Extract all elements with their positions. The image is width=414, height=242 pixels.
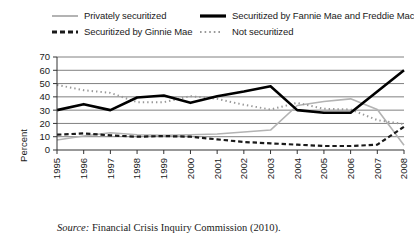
x-tick-label: 2003 <box>265 158 276 179</box>
y-tick-label: 20 <box>39 118 50 129</box>
x-tick-label: 2008 <box>398 158 409 179</box>
series-line <box>57 99 404 146</box>
plot-area: Percent 010203040506070 1995199619971998… <box>0 44 412 199</box>
x-tick-label: 1998 <box>131 158 142 179</box>
gridlines <box>57 57 404 137</box>
legend-item-ginnie-mae: Securitized by Ginnie Mae <box>52 24 192 39</box>
legend-item-privately-securitized: Privately securitized <box>52 8 166 23</box>
legend-swatch-solid-black-icon <box>200 10 226 22</box>
legend-label: Privately securitized <box>84 10 166 21</box>
y-axis-label: Percent <box>18 111 29 181</box>
x-tick-label: 1999 <box>158 158 169 179</box>
y-tick-label: 50 <box>39 78 50 89</box>
legend-label: Securitized by Ginnie Mae <box>84 26 192 37</box>
series-line <box>57 70 404 113</box>
y-tick-label: 40 <box>39 91 50 102</box>
chart-legend: Privately securitized Securitized by Fan… <box>52 8 404 40</box>
x-axis-ticks: 1995199619971998199920002001200220032004… <box>51 150 409 179</box>
y-tick-label: 60 <box>39 65 50 76</box>
line-chart-svg: 010203040506070 199519961997199819992000… <box>0 44 412 199</box>
x-tick-label: 1995 <box>51 158 62 179</box>
source-text: Financial Crisis Inquiry Commission (201… <box>92 222 281 233</box>
source-note: Source: Financial Crisis Inquiry Commiss… <box>57 222 281 233</box>
legend-label: Not securitized <box>232 26 293 37</box>
series-line <box>57 85 404 124</box>
x-tick-label: 1997 <box>105 158 116 179</box>
series-lines <box>57 70 404 146</box>
legend-item-fannie-freddie: Securitized by Fannie Mae and Freddie Ma… <box>200 8 414 23</box>
y-tick-label: 10 <box>39 131 50 142</box>
y-axis-ticks: 010203040506070 <box>39 51 57 155</box>
legend-label: Securitized by Fannie Mae and Freddie Ma… <box>232 10 414 21</box>
legend-swatch-dotted-icon <box>200 26 226 38</box>
x-tick-label: 2000 <box>185 158 196 179</box>
x-tick-label: 2007 <box>372 158 383 179</box>
source-label: Source: <box>57 222 89 233</box>
legend-row: Privately securitized Securitized by Fan… <box>52 8 404 23</box>
y-tick-label: 0 <box>45 144 50 155</box>
legend-row: Securitized by Ginnie Mae Not securitize… <box>52 24 404 39</box>
x-tick-label: 2001 <box>212 158 223 179</box>
legend-swatch-solid-gray-icon <box>52 10 78 22</box>
y-tick-label: 30 <box>39 105 50 116</box>
x-tick-label: 2006 <box>345 158 356 179</box>
y-tick-label: 70 <box>39 51 50 62</box>
x-tick-label: 2002 <box>238 158 249 179</box>
x-tick-label: 1996 <box>78 158 89 179</box>
x-tick-label: 2005 <box>318 158 329 179</box>
legend-item-not-securitized: Not securitized <box>200 24 293 39</box>
legend-swatch-dashed-icon <box>52 26 78 38</box>
x-tick-label: 2004 <box>292 158 303 179</box>
